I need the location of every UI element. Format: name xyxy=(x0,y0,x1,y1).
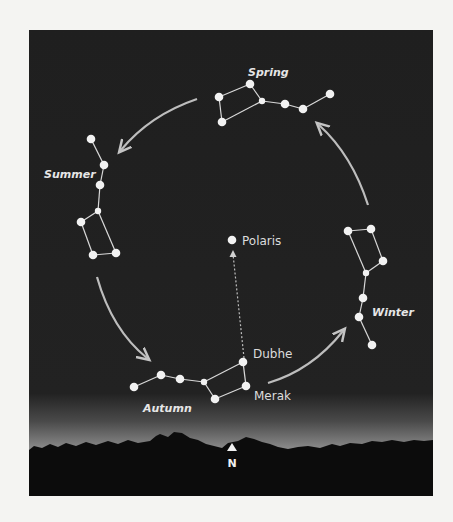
star xyxy=(259,98,265,104)
star xyxy=(367,225,376,234)
season-label-autumn: Autumn xyxy=(142,402,192,415)
season-label-winter: Winter xyxy=(372,306,414,319)
star-label-dubhe: Dubhe xyxy=(253,347,292,361)
season-label-summer: Summer xyxy=(44,168,96,181)
star xyxy=(215,93,224,102)
star xyxy=(77,218,86,227)
season-label-spring: Spring xyxy=(248,66,289,79)
star xyxy=(326,90,335,99)
star xyxy=(379,257,388,266)
star-polaris xyxy=(228,236,237,245)
star xyxy=(239,358,248,367)
star xyxy=(176,375,185,384)
star xyxy=(157,371,166,380)
star xyxy=(355,313,364,322)
star xyxy=(363,270,369,276)
star xyxy=(368,341,377,350)
star xyxy=(96,181,105,190)
star xyxy=(87,135,96,144)
star xyxy=(130,383,139,392)
star-label-merak: Merak xyxy=(254,389,291,403)
star xyxy=(89,251,98,260)
star xyxy=(211,395,220,404)
star xyxy=(299,105,308,114)
star xyxy=(95,208,101,214)
star xyxy=(201,379,207,385)
sky-panel xyxy=(29,30,433,496)
north-label: N xyxy=(227,457,236,470)
star xyxy=(344,227,353,236)
star xyxy=(112,249,121,258)
star xyxy=(281,100,290,109)
star xyxy=(242,382,251,391)
star xyxy=(359,294,368,303)
star xyxy=(100,161,109,170)
big-dipper-seasonal-diagram: SpringSummerAutumnWinter PolarisDubheMer… xyxy=(0,0,453,522)
star-label-polaris: Polaris xyxy=(242,234,281,248)
star xyxy=(218,118,227,127)
star xyxy=(246,80,255,89)
